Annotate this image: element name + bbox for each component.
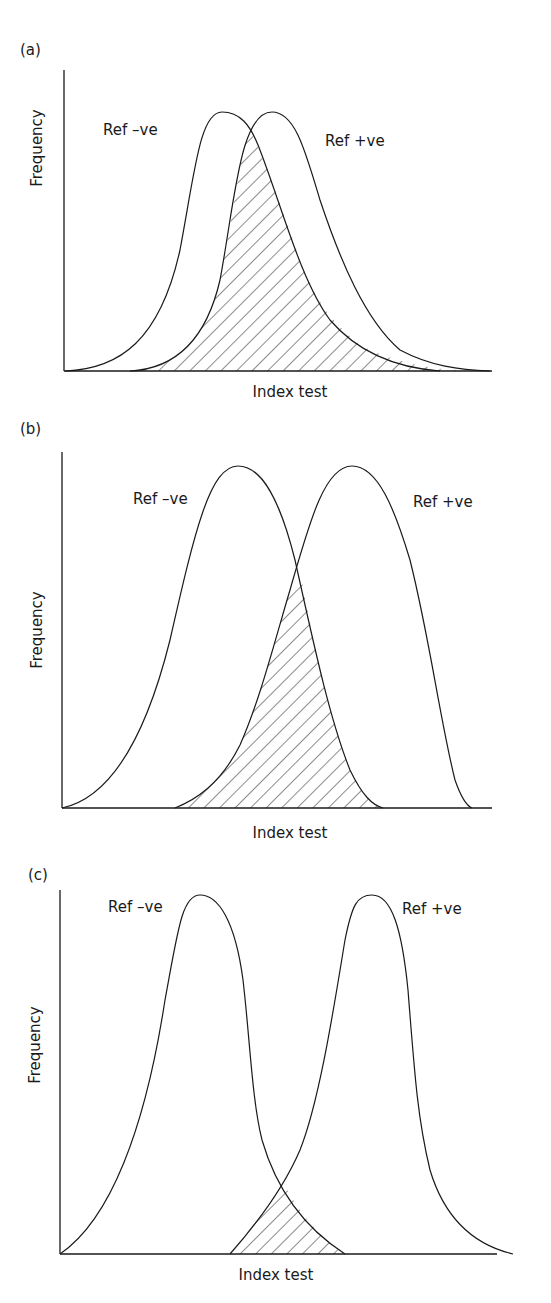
overlap-hatched-area <box>130 128 470 371</box>
panel-a: (a) Frequency Index test Ref –ve Ref +ve <box>20 41 492 401</box>
overlap-hatched-area <box>230 1184 345 1254</box>
ref-negative-label: Ref –ve <box>133 490 188 508</box>
ref-negative-label: Ref –ve <box>103 121 158 139</box>
ref-positive-label: Ref +ve <box>402 900 462 918</box>
ref-positive-curve <box>230 895 513 1254</box>
ref-negative-curve <box>60 895 345 1254</box>
figure: (a) Frequency Index test Ref –ve Ref +ve… <box>0 0 551 1303</box>
y-axis-label: Frequency <box>28 109 46 187</box>
ref-positive-label: Ref +ve <box>325 132 385 150</box>
y-axis-label: Frequency <box>28 591 46 669</box>
x-axis-label: Index test <box>253 383 328 401</box>
panel-c: (c) Frequency Index test Ref –ve Ref +ve <box>26 866 513 1284</box>
panel-label: (c) <box>28 866 48 884</box>
panel-label: (a) <box>20 41 41 59</box>
x-axis-label: Index test <box>253 824 328 842</box>
x-axis-label: Index test <box>239 1266 314 1284</box>
y-axis-label: Frequency <box>26 1006 44 1084</box>
ref-negative-label: Ref –ve <box>108 898 163 916</box>
panel-b: (b) Frequency Index test Ref –ve Ref +ve <box>20 420 492 842</box>
ref-positive-label: Ref +ve <box>413 493 473 511</box>
panel-label: (b) <box>20 420 41 438</box>
